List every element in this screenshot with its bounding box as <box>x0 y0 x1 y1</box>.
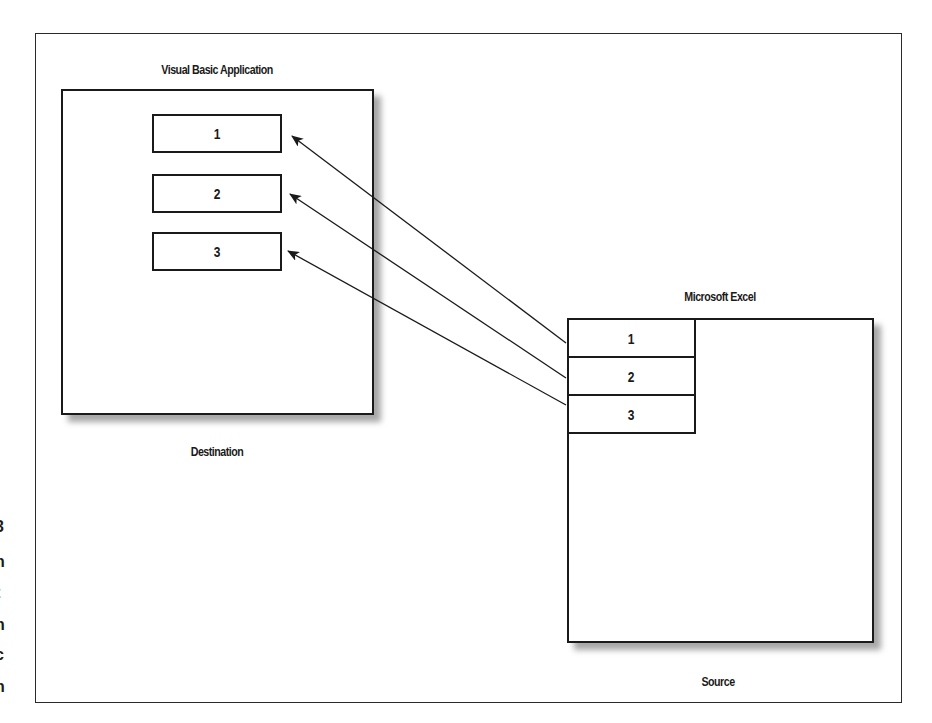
excel-cell-2: 2 <box>569 358 696 396</box>
excel-cell-3-label: 3 <box>628 406 635 423</box>
excel-title: Microsoft Excel <box>638 289 802 304</box>
caption-fragment: c <box>0 647 4 663</box>
vb-field-2-label: 2 <box>214 185 221 202</box>
excel-cell-1: 1 <box>569 320 696 358</box>
caption-fragment: n <box>0 617 5 633</box>
vb-field-1-label: 1 <box>214 125 221 142</box>
vb-field-3-label: 3 <box>214 243 221 260</box>
excel-window: 1 2 3 <box>567 318 874 643</box>
vb-app-title: Visual Basic Application <box>135 62 299 77</box>
excel-cell-2-label: 2 <box>628 368 635 385</box>
excel-cell-1-label: 1 <box>628 330 635 347</box>
destination-caption: Destination <box>168 444 266 459</box>
vb-field-3: 3 <box>152 232 282 271</box>
source-caption: Source <box>669 674 767 689</box>
vb-field-2: 2 <box>152 174 282 213</box>
vb-field-1: 1 <box>152 114 282 153</box>
caption-fragment: 3 <box>0 519 4 535</box>
excel-cell-3: 3 <box>569 396 696 434</box>
caption-fragment: n <box>0 679 5 695</box>
caption-fragment: n <box>0 554 5 570</box>
